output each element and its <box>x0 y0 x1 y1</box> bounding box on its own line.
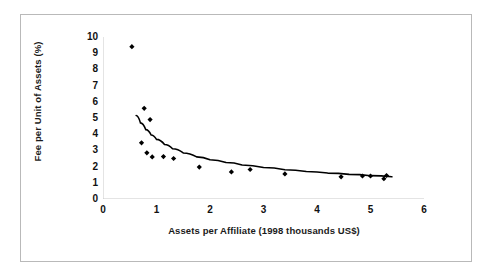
y-axis-title: Fee per Unit of Assets (%) <box>32 7 43 197</box>
y-tick-label: 5 <box>76 113 98 123</box>
x-axis-tick-labels: 0123456 <box>103 205 424 219</box>
y-tick-label: 0 <box>76 194 98 204</box>
x-tick-label: 2 <box>198 205 222 215</box>
data-point-marker <box>147 117 152 122</box>
figure: Fee per Unit of Assets (%) Assets per Af… <box>0 0 493 276</box>
y-tick-label: 7 <box>76 81 98 91</box>
x-tick-label: 0 <box>91 205 115 215</box>
data-point-marker <box>248 167 253 172</box>
y-tick-label: 8 <box>76 64 98 74</box>
y-tick-label: 2 <box>76 162 98 172</box>
data-point-marker <box>282 171 287 176</box>
scatter-plot-canvas <box>103 37 424 199</box>
x-tick-label: 1 <box>145 205 169 215</box>
y-axis-tick-labels: 012345678910 <box>72 37 98 199</box>
plot-area <box>103 37 424 199</box>
y-tick-label: 6 <box>76 97 98 107</box>
data-point-marker <box>144 150 149 155</box>
x-tick-label: 3 <box>252 205 276 215</box>
data-point-marker <box>139 140 144 145</box>
data-point-marker <box>161 154 166 159</box>
data-point-marker <box>129 44 134 49</box>
data-point-marker <box>338 174 343 179</box>
y-tick-label: 3 <box>76 145 98 155</box>
data-point-marker <box>229 169 234 174</box>
data-point-marker <box>171 156 176 161</box>
y-tick-label: 9 <box>76 48 98 58</box>
x-tick-label: 6 <box>412 205 436 215</box>
x-tick-label: 4 <box>305 205 329 215</box>
data-point-marker <box>197 164 202 169</box>
y-tick-label: 4 <box>76 129 98 139</box>
data-point-marker <box>142 106 147 111</box>
y-tick-label: 10 <box>76 32 98 42</box>
x-axis-title: Assets per Affiliate (1998 thousands US$… <box>103 225 425 236</box>
trend-curve <box>136 116 392 177</box>
y-tick-label: 1 <box>76 178 98 188</box>
data-point-marker <box>150 154 155 159</box>
x-tick-label: 5 <box>359 205 383 215</box>
